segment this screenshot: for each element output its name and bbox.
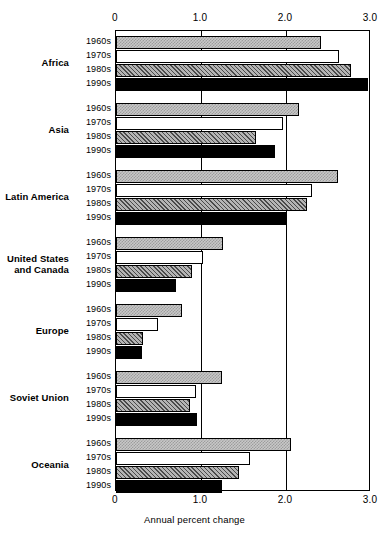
bar-row — [116, 304, 369, 317]
bar-row — [116, 131, 369, 144]
x-tick-label: 3.0 — [363, 494, 378, 506]
bar-row — [116, 480, 369, 493]
decade-label: 1960s — [71, 102, 111, 115]
bar-1970s — [116, 385, 196, 398]
decade-label: 1990s — [71, 77, 111, 90]
bar-group — [116, 304, 369, 360]
bar-1990s — [116, 212, 286, 225]
bar-1970s — [116, 318, 158, 331]
bar-groups — [116, 31, 369, 490]
population-growth-bar-chart: 01.02.03.0 Africa1960s1970s1980s1990sAsi… — [0, 0, 389, 533]
bar-1960s — [116, 371, 222, 384]
bar-group — [116, 237, 369, 293]
category-name: Oceania — [31, 459, 69, 470]
decade-label: 1980s — [71, 398, 111, 411]
category-name: Europe — [36, 325, 69, 336]
label-group: Asia1960s1970s1980s1990s — [0, 102, 113, 157]
x-tick-label: 0 — [112, 494, 118, 506]
bar-1990s — [116, 346, 142, 359]
decade-label: 1960s — [71, 303, 111, 316]
decade-label: 1960s — [71, 236, 111, 249]
bar-1970s — [116, 117, 283, 130]
label-group: Oceania1960s1970s1980s1990s — [0, 437, 113, 492]
bar-row — [116, 466, 369, 479]
decade-label: 1990s — [71, 345, 111, 358]
bar-1970s — [116, 184, 312, 197]
bar-row — [116, 346, 369, 359]
decade-label: 1970s — [71, 250, 111, 263]
bar-1970s — [116, 50, 339, 63]
bar-row — [116, 237, 369, 250]
decade-label: 1980s — [71, 130, 111, 143]
bar-1960s — [116, 36, 321, 49]
bar-1980s — [116, 466, 239, 479]
bar-1960s — [116, 237, 223, 250]
category-name: Africa — [41, 57, 69, 68]
category-name: Soviet Union — [10, 392, 69, 403]
decade-label: 1960s — [71, 437, 111, 450]
decade-label: 1980s — [71, 264, 111, 277]
decade-label: 1970s — [71, 317, 111, 330]
bar-1980s — [116, 198, 307, 211]
x-axis-top-scale: 01.02.03.0 — [115, 12, 370, 26]
category-labels: Africa1960s1970s1980s1990sAsia1960s1970s… — [0, 30, 113, 491]
decade-label: 1990s — [71, 412, 111, 425]
bar-1960s — [116, 103, 299, 116]
decade-label: 1970s — [71, 116, 111, 129]
x-axis-bottom-scale: 01.02.03.0 — [115, 494, 370, 508]
bar-row — [116, 385, 369, 398]
decade-label: 1980s — [71, 197, 111, 210]
decade-label: 1990s — [71, 144, 111, 157]
decade-label: 1970s — [71, 183, 111, 196]
label-group: United States and Canada1960s1970s1980s1… — [0, 236, 113, 291]
label-group: Soviet Union1960s1970s1980s1990s — [0, 370, 113, 425]
bar-1960s — [116, 304, 182, 317]
bar-1980s — [116, 332, 143, 345]
decade-label: 1980s — [71, 465, 111, 478]
bar-1960s — [116, 170, 338, 183]
category-name: United States and Canada — [7, 253, 69, 275]
bar-row — [116, 452, 369, 465]
plot-area — [115, 30, 370, 491]
decade-label: 1980s — [71, 331, 111, 344]
bar-row — [116, 265, 369, 278]
bar-1980s — [116, 131, 256, 144]
bar-group — [116, 438, 369, 494]
bar-1980s — [116, 64, 351, 77]
category-name: Asia — [49, 124, 69, 135]
bar-row — [116, 170, 369, 183]
bar-row — [116, 399, 369, 412]
bar-group — [116, 371, 369, 427]
decade-label: 1990s — [71, 278, 111, 291]
bar-group — [116, 170, 369, 226]
bar-row — [116, 332, 369, 345]
decade-label: 1960s — [71, 169, 111, 182]
bar-1990s — [116, 480, 222, 493]
bar-row — [116, 318, 369, 331]
bar-1990s — [116, 413, 197, 426]
bar-row — [116, 198, 369, 211]
bar-row — [116, 50, 369, 63]
category-name: Latin America — [5, 191, 69, 202]
bar-1990s — [116, 145, 275, 158]
decade-label: 1970s — [71, 384, 111, 397]
bar-row — [116, 212, 369, 225]
bar-1970s — [116, 251, 203, 264]
bar-row — [116, 279, 369, 292]
bar-row — [116, 438, 369, 451]
bar-1990s — [116, 78, 368, 91]
x-tick-label: 0 — [112, 12, 118, 24]
bar-row — [116, 36, 369, 49]
bar-group — [116, 103, 369, 159]
x-tick-label: 1.0 — [193, 12, 208, 24]
bar-group — [116, 36, 369, 92]
bar-1960s — [116, 438, 291, 451]
decade-label: 1970s — [71, 49, 111, 62]
bar-1990s — [116, 279, 176, 292]
x-tick-label: 3.0 — [363, 12, 378, 24]
decade-label: 1990s — [71, 479, 111, 492]
label-group: Europe1960s1970s1980s1990s — [0, 303, 113, 358]
decade-label: 1980s — [71, 63, 111, 76]
bar-row — [116, 413, 369, 426]
bar-1980s — [116, 265, 192, 278]
